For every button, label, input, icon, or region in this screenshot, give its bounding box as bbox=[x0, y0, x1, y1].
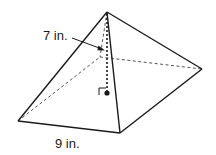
hidden-edge-right bbox=[100, 57, 202, 69]
edge-apex-right bbox=[107, 12, 202, 69]
edge-base-front-left bbox=[18, 121, 120, 133]
edge-base-front-right bbox=[120, 69, 202, 133]
pyramid-drawing bbox=[0, 0, 216, 155]
height-label: 7 in. bbox=[43, 29, 68, 42]
edge-apex-front bbox=[107, 12, 120, 133]
arrowhead-icon bbox=[97, 46, 105, 51]
pyramid-figure: 7 in. 9 in. bbox=[0, 0, 216, 155]
hidden-edge-left bbox=[18, 57, 100, 121]
base-center-dot bbox=[104, 90, 109, 95]
base-edge-label: 9 in. bbox=[55, 137, 80, 150]
